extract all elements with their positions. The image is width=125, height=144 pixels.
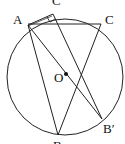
label-C-prime: C <box>52 0 61 8</box>
label-B: B <box>53 138 62 144</box>
label-C: C <box>105 12 114 27</box>
segment-ACprime <box>28 14 53 25</box>
label-A: A <box>13 12 23 27</box>
label-B-prime: B′ <box>103 121 115 136</box>
geometry-diagram: A C C O B B′ <box>0 0 125 144</box>
segment-CB <box>58 24 101 135</box>
label-O: O <box>54 70 63 85</box>
center-point-O <box>64 72 68 76</box>
